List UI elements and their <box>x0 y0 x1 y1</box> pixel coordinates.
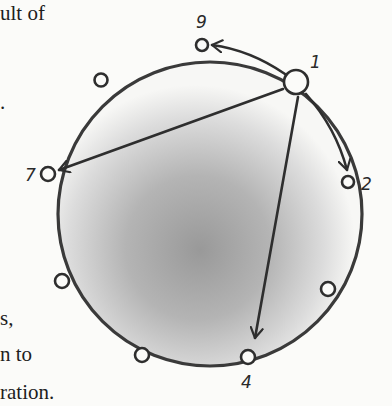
node-1 <box>284 70 308 94</box>
node-9 <box>196 39 208 51</box>
node-7 <box>41 167 55 181</box>
node-unlabeled <box>95 74 108 87</box>
node-unlabeled <box>55 274 69 288</box>
ring-shading <box>59 63 361 365</box>
node-label-7: 7 <box>25 165 36 185</box>
ring-diagram: 1 9 7 4 2 <box>0 0 392 406</box>
node-label-1: 1 <box>310 52 321 72</box>
node-unlabeled <box>135 348 149 362</box>
page: ult of . s, n to ration. <box>0 0 392 406</box>
node-label-9: 9 <box>196 12 207 32</box>
node-unlabeled <box>321 282 335 296</box>
node-2 <box>342 176 354 188</box>
node-label-4: 4 <box>241 372 252 392</box>
node-4 <box>241 350 255 364</box>
node-label-2: 2 <box>361 174 372 194</box>
